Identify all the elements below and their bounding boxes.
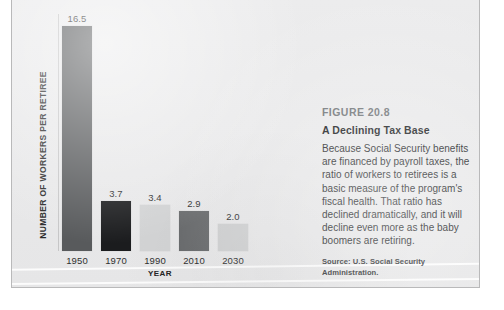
- bar-chart: NUMBER OF WORKERS PER RETIREE 16.519503.…: [12, 0, 267, 288]
- figure-body-text: Because Social Security benefits are fin…: [322, 142, 474, 248]
- bar-value-label: 2.9: [171, 198, 217, 209]
- figure-source-text: Source: U.S. Social Security Administrat…: [322, 256, 474, 279]
- x-axis-label: YEAR: [62, 269, 258, 278]
- bar-group: 3.41990: [140, 14, 170, 251]
- bar: [179, 211, 209, 251]
- y-axis-label: NUMBER OF WORKERS PER RETIREE: [38, 60, 48, 250]
- x-tick-label: 2030: [209, 255, 257, 266]
- bar: [140, 205, 170, 251]
- figure-caption: FIGURE 20.8 A Declining Tax Base Because…: [322, 106, 474, 279]
- bar-value-label: 16.5: [54, 13, 100, 24]
- figure-panel: NUMBER OF WORKERS PER RETIREE 16.519503.…: [11, 0, 480, 288]
- bar-group: 2.92010: [179, 14, 209, 251]
- figure-title: A Declining Tax Base: [322, 124, 474, 136]
- y-axis-line: [58, 14, 59, 251]
- plot-region: 16.519503.719703.419902.920102.02030: [62, 14, 258, 251]
- bar-value-label: 2.0: [210, 211, 256, 222]
- bar-group: 2.02030: [218, 14, 248, 251]
- bar-group: 16.51950: [62, 14, 92, 251]
- figure-number: FIGURE 20.8: [322, 106, 474, 118]
- figure-page: NUMBER OF WORKERS PER RETIREE 16.519503.…: [0, 0, 504, 310]
- bar: [62, 26, 92, 251]
- bar-group: 3.71970: [101, 14, 131, 251]
- bar: [101, 201, 131, 251]
- bar: [218, 224, 248, 251]
